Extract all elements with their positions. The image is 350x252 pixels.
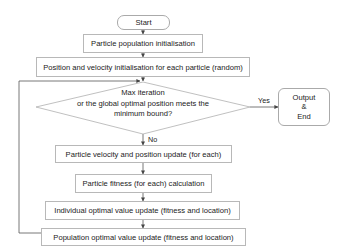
decision-line1: Max iteration (68, 88, 218, 99)
decision-text: Max iteration or the global optimal posi… (68, 88, 218, 120)
step4-label: Particle fitness (for each) calculation (83, 179, 205, 188)
end-line1: Output (293, 93, 316, 102)
step5-label: Individual optimal value update (fitness… (54, 206, 230, 215)
fitness-calculation-box: Particle fitness (for each) calculation (75, 174, 212, 193)
step3-label: Particle velocity and position update (f… (66, 150, 222, 159)
no-label: No (148, 135, 157, 144)
step1-label: Particle population initialisation (91, 39, 195, 48)
yes-label: Yes (258, 96, 270, 105)
output-end-node: Output & End (278, 88, 330, 126)
start-label: Start (135, 18, 151, 27)
individual-optimal-update-box: Individual optimal value update (fitness… (45, 201, 240, 220)
end-line2: & (301, 102, 306, 111)
decision-line2: or the global optimal position meets the (68, 99, 218, 110)
end-line3: End (297, 112, 311, 121)
decision-line3: minimum bound? (68, 109, 218, 120)
population-optimal-update-box: Population optimal value update (fitness… (41, 228, 246, 246)
start-node: Start (117, 15, 170, 30)
particle-population-init-box: Particle population initialisation (83, 34, 203, 53)
velocity-position-update-box: Particle velocity and position update (f… (55, 145, 232, 163)
step6-label: Population optimal value update (fitness… (53, 233, 233, 242)
position-velocity-init-box: Position and velocity initialisation for… (36, 57, 250, 77)
step2-label: Position and velocity initialisation for… (43, 63, 243, 72)
